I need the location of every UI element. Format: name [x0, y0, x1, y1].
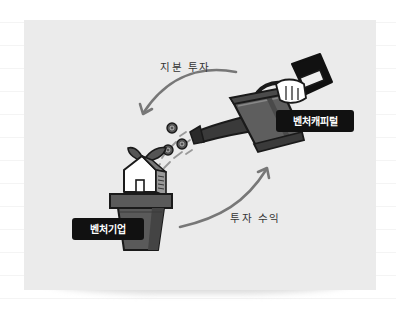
venture-company-label: 벤처기업 [90, 223, 126, 235]
coin-icon [163, 123, 187, 155]
venture-company-badge: 벤처기업 [72, 218, 144, 240]
venture-capital-label: 벤처캐피털 [293, 115, 338, 127]
house-icon [124, 156, 166, 196]
equity-investment-arrow [140, 70, 236, 114]
illustration-card: 지분 투자 투자 수익 [24, 20, 376, 290]
equity-investment-label: 지분 투자 [160, 61, 211, 73]
investment-return-label: 투자 수익 [230, 212, 281, 224]
venture-capital-badge: 벤처캐피털 [276, 110, 354, 132]
hand-icon [276, 80, 306, 103]
